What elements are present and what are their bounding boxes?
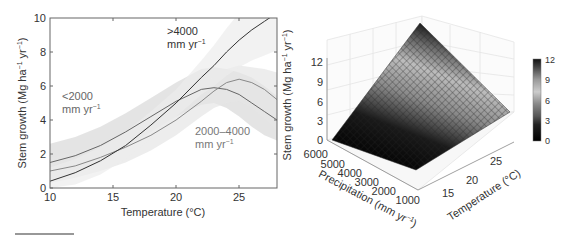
- z-tick-label: 6: [317, 96, 323, 108]
- y-tick-label: 10: [34, 12, 46, 24]
- colorbar-tick: 9: [545, 75, 550, 85]
- svg-text:mm yr−1: mm yr−1: [62, 103, 101, 115]
- x-axis-label: Temperature (°C): [121, 206, 205, 218]
- y-axis-label: Stem growth (Mg ha−1 yr−1): [16, 38, 28, 169]
- left-line-chart: 0 2 4 6 8 10 10 15 20 25 Temperature (°C…: [16, 0, 277, 218]
- right-surface-chart: 0 3 6 9 12 Stem growth (Mg ha−1 yr−1) 60…: [281, 16, 555, 229]
- temperature-label: Temperature (°C): [445, 167, 522, 223]
- x-tick-label: 20: [170, 191, 182, 203]
- z-tick-label: 0: [317, 134, 323, 146]
- annotation-high: >4000 mm yr−1: [167, 25, 206, 50]
- x-tick-label: 10: [44, 191, 56, 203]
- svg-text:2000–4000: 2000–4000: [195, 125, 250, 137]
- x-tick-label: 15: [107, 191, 119, 203]
- y-tick-label: 6: [40, 80, 46, 92]
- precip-tick-label: 1000: [396, 194, 420, 206]
- temp-tick-label: 15: [442, 187, 454, 199]
- svg-text:mm yr−1: mm yr−1: [195, 138, 234, 150]
- y-tick-label: 2: [40, 148, 46, 160]
- y-tick-label: 8: [40, 46, 46, 58]
- annotation-mid: 2000–4000 mm yr−1: [195, 125, 250, 150]
- z-axis-label: Stem growth (Mg ha−1 yr−1): [281, 30, 293, 161]
- colorbar-tick: 6: [545, 96, 550, 106]
- z-tick-label: 3: [317, 115, 323, 127]
- temp-tick-label: 20: [466, 174, 478, 186]
- y-tick-label: 4: [40, 114, 46, 126]
- svg-text:mm yr−1: mm yr−1: [167, 38, 206, 50]
- colorbar-tick: 12: [545, 55, 555, 65]
- figure: 0 2 4 6 8 10 10 15 20 25 Temperature (°C…: [0, 0, 564, 236]
- z-tick-label: 9: [317, 76, 323, 88]
- z-axis: 0 3 6 9 12 Stem growth (Mg ha−1 yr−1): [281, 30, 323, 161]
- x-tick-label: 25: [233, 191, 245, 203]
- svg-text:<2000: <2000: [62, 90, 93, 102]
- z-tick-label: 12: [311, 56, 323, 68]
- colorbar-tick: 3: [545, 116, 550, 126]
- temp-tick-label: 25: [490, 155, 502, 167]
- annotation-low: <2000 mm yr−1: [62, 90, 101, 115]
- colorbar-tick: 0: [545, 136, 550, 146]
- temperature-axis: 15 20 25 Temperature (°C): [442, 155, 523, 223]
- colorbar: 12 9 6 3 0: [533, 55, 555, 146]
- svg-text:>4000: >4000: [167, 25, 198, 37]
